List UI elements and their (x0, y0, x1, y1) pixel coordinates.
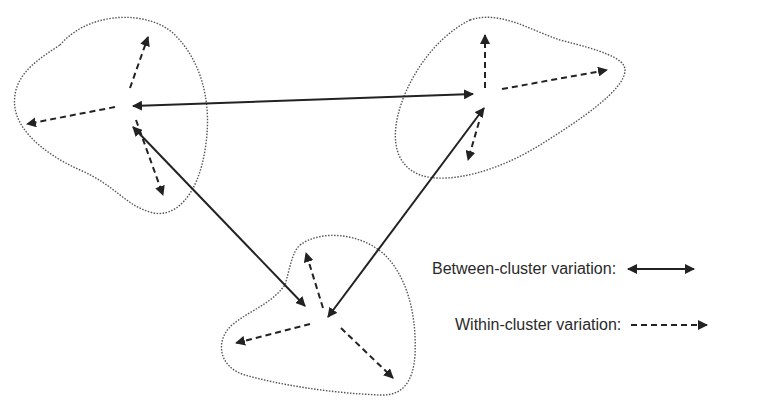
legend-between: Between-cluster variation: (432, 260, 698, 278)
within-arrow (306, 253, 323, 308)
legend-within-label: Within-cluster variation: (455, 316, 621, 334)
between-arrow (328, 108, 484, 317)
within-arrow (236, 324, 310, 343)
between-arrow (133, 94, 473, 106)
cluster-right-outline (395, 17, 625, 178)
within-arrow (136, 120, 163, 195)
within-arrow (502, 70, 607, 89)
dashed-arrow-icon (629, 318, 711, 332)
legend-within: Within-cluster variation: (455, 316, 711, 334)
cluster-left-outline (14, 17, 207, 213)
between-cluster-arrows (133, 94, 484, 317)
within-arrow (130, 37, 148, 88)
within-arrow (341, 328, 393, 378)
double-arrow-icon (624, 262, 698, 276)
cluster-diagram (0, 0, 763, 416)
within-arrow (27, 107, 115, 124)
legend-between-label: Between-cluster variation: (432, 260, 616, 278)
between-arrow (133, 127, 305, 306)
